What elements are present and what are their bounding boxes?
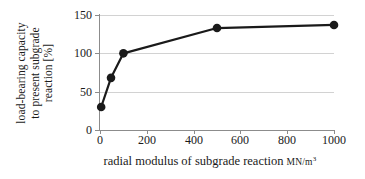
y-axis-label-line-1: load-bearing capacity (15, 22, 29, 123)
x-axis-label-text: radial modulus of subgrade reaction (104, 154, 284, 168)
y-axis-label: load-bearing capacity to present subgrad… (0, 0, 70, 145)
y-tick-label-150: 150 (62, 9, 92, 21)
y-axis-label-line-3: reaction [%] (42, 22, 56, 123)
x-tick-label-1000: 1000 (314, 134, 354, 146)
x-tick-label-800: 800 (267, 134, 307, 146)
x-axis-line (99, 130, 335, 131)
y-tick-mark-50 (95, 92, 99, 93)
y-tick-mark-150 (95, 15, 99, 16)
y-tick-label-50: 50 (62, 86, 92, 98)
x-axis-label: radial modulus of subgrade reaction MN/m… (60, 152, 360, 170)
x-tick-label-200: 200 (127, 134, 167, 146)
x-tick-label-0: 0 (80, 134, 120, 146)
x-tick-label-600: 600 (220, 134, 260, 146)
gridline-100 (100, 53, 334, 54)
y-tick-mark-100 (95, 53, 99, 54)
y-axis-label-line-2: to present subgrade (28, 22, 42, 123)
y-axis-label-text: load-bearing capacity to present subgrad… (15, 22, 56, 123)
x-tick-label-400: 400 (174, 134, 214, 146)
x-axis-unit-base: MN/m (287, 157, 313, 167)
x-axis-unit: MN/m3 (287, 157, 317, 167)
gridline-150 (100, 15, 334, 16)
y-tick-mark-0 (95, 130, 99, 131)
chart-figure: load-bearing capacity to present subgrad… (0, 0, 365, 179)
x-axis-unit-exponent: 3 (313, 155, 317, 163)
plot-area (100, 15, 334, 130)
y-tick-label-100: 100 (62, 47, 92, 59)
gridline-50 (100, 92, 334, 93)
